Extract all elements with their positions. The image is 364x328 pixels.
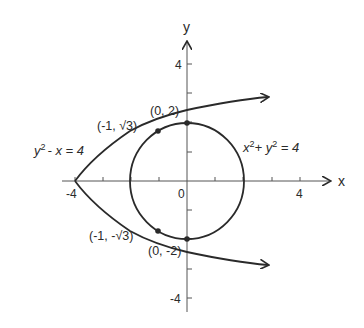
- label-point-neg1-sqrt3: (-1, √3): [97, 119, 137, 133]
- point-0-2: [184, 120, 190, 126]
- circle-equation-label: x2+ y2 = 4: [242, 139, 299, 155]
- tick-label-x-neg4: -4: [66, 187, 77, 201]
- y-axis-label: y: [183, 19, 190, 35]
- tick-label-y-neg4: -4: [170, 292, 181, 306]
- x-axis: [62, 177, 330, 181]
- label-point-0-2: (0, 2): [150, 104, 179, 118]
- tick-label-y-4: 4: [175, 58, 182, 72]
- x-axis-label: x: [338, 173, 345, 189]
- tick-label-origin: 0: [178, 187, 185, 201]
- point-neg1-negsqrt3: [155, 228, 161, 234]
- y-axis: [187, 42, 192, 312]
- tick-label-x-4: 4: [296, 187, 303, 201]
- parabola-equation-label: y2- x = 4: [33, 142, 84, 158]
- graph-canvas: y x -4 0 4 4 -4 (0, 2) (-1, √3) (-1, -√3…: [0, 0, 364, 328]
- point-neg1-sqrt3: [155, 128, 161, 134]
- label-point-0-neg2: (0, -2): [148, 244, 181, 258]
- point-0-neg2: [184, 236, 190, 242]
- label-point-neg1-negsqrt3: (-1, -√3): [89, 229, 133, 243]
